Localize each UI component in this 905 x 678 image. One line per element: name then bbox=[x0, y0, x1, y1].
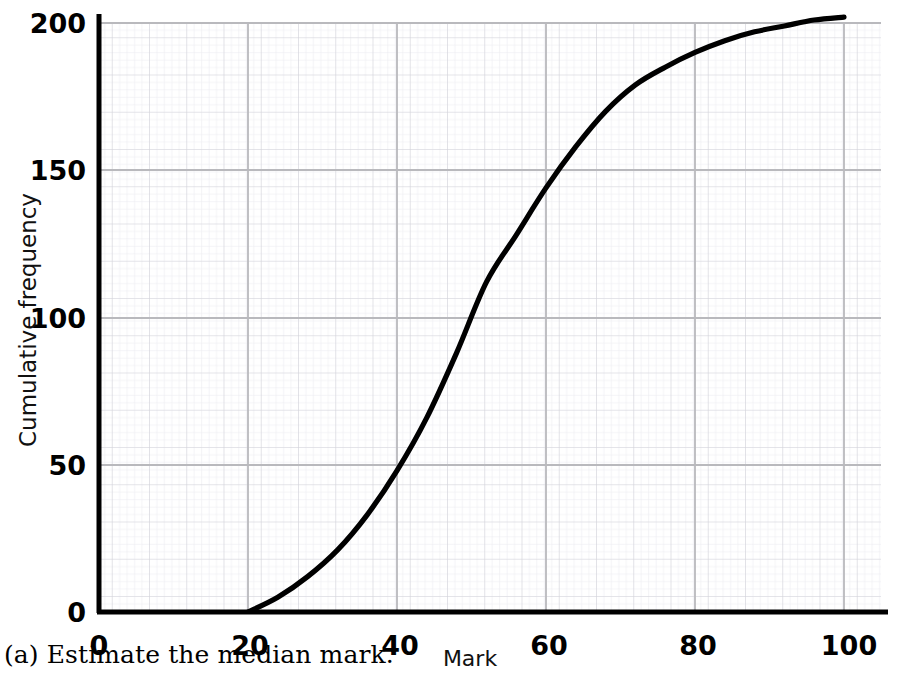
y-axis-title: Cumulative frequency bbox=[15, 193, 41, 447]
chart-page: 200 150 100 50 0 0 20 40 60 80 100 Mark … bbox=[0, 0, 905, 678]
y-tick-50: 50 bbox=[48, 450, 86, 481]
x-tick-60: 60 bbox=[530, 630, 568, 661]
y-tick-200: 200 bbox=[30, 8, 86, 39]
cumulative-frequency-chart: 200 150 100 50 0 0 20 40 60 80 100 Mark … bbox=[0, 0, 905, 678]
chart-svg: 200 150 100 50 0 0 20 40 60 80 100 Mark … bbox=[0, 0, 905, 678]
question-caption: (a) Estimate the median mark. bbox=[4, 640, 394, 669]
y-tick-0: 0 bbox=[67, 597, 86, 628]
x-axis-title: Mark bbox=[443, 646, 498, 671]
x-tick-100: 100 bbox=[821, 630, 877, 661]
y-tick-150: 150 bbox=[30, 155, 86, 186]
x-tick-80: 80 bbox=[679, 630, 717, 661]
